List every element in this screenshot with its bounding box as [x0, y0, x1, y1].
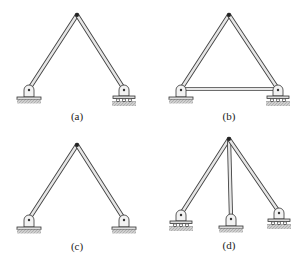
apex-hinge: [75, 143, 79, 147]
roller-support-left: [169, 210, 193, 231]
structures-diagram: [0, 0, 305, 261]
figure-c: [17, 143, 136, 234]
roller-support-right: [267, 208, 291, 229]
figure-label-d: (d): [223, 239, 236, 251]
pin-support-left: [17, 85, 41, 104]
figure-d: [169, 137, 291, 233]
apex-hinge: [227, 13, 231, 17]
figure-label-c: (c): [71, 240, 83, 252]
figure-b: [169, 13, 290, 106]
figure-a: [17, 13, 136, 106]
roller-support-right: [112, 85, 136, 106]
apex-hinge: [227, 137, 231, 141]
figure-label-b: (b): [223, 110, 236, 122]
pin-support-center: [219, 214, 243, 233]
pin-support-left: [17, 215, 41, 234]
apex-hinge: [75, 13, 79, 17]
figure-label-a: (a): [71, 110, 83, 122]
pin-support-right: [112, 215, 136, 234]
